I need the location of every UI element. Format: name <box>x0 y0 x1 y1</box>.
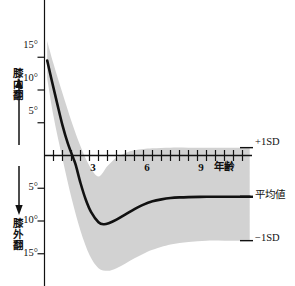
y-axis-ticks <box>38 57 46 254</box>
chart-plot-area <box>0 0 295 286</box>
x-axis-label: 年齢 <box>214 162 234 173</box>
x-tick-label-9: 9 <box>193 162 209 173</box>
y-tick-label-varus-5: 5° <box>12 106 38 117</box>
y-axis-label-valgus: 膝外翻 <box>11 218 22 251</box>
y-tick-label-varus-15: 15° <box>12 40 38 51</box>
annotation-mean-value: 平均値 <box>255 190 285 201</box>
x-tick-label-3: 3 <box>85 162 101 173</box>
x-tick-label-6: 6 <box>139 162 155 173</box>
annotation-minus-1sd: −1SD <box>255 233 280 244</box>
annotation-plus-1sd: +1SD <box>255 137 280 148</box>
tibiofemoral-angle-growth-chart: 15° 10° 5° 5° 10° 15° 膝内翻 膝外翻 3 6 9 年齢 +… <box>0 0 295 286</box>
y-tick-label-valgus-5: 5° <box>12 182 38 193</box>
y-axis-label-varus: 膝内翻 <box>11 68 22 101</box>
